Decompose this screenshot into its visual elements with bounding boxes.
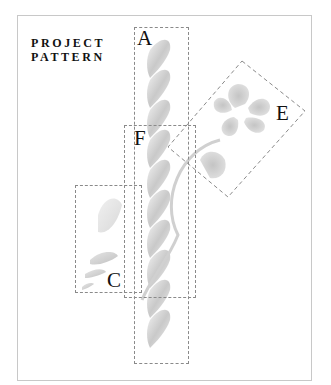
label-a: A	[137, 28, 152, 49]
label-c: C	[107, 270, 121, 291]
label-f: F	[134, 128, 146, 149]
label-e: E	[276, 103, 289, 124]
